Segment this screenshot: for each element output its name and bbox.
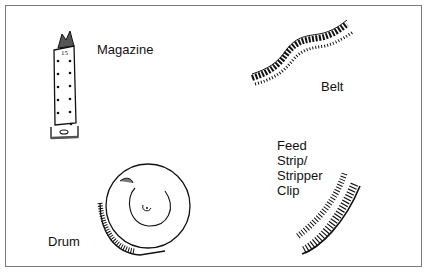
magazine-round-count: 15 (61, 49, 69, 57)
drum-label: Drum (48, 234, 80, 249)
drum-illustration (95, 163, 195, 263)
belt-label: Belt (321, 79, 343, 94)
magazine-illustration: 15 (48, 28, 88, 140)
feed-strip-label-line: Strip/ (277, 153, 323, 168)
magazine-label: Magazine (97, 42, 153, 57)
belt-illustration (247, 18, 357, 88)
feed-strip-label-line: Stripper (277, 168, 323, 183)
feed-strip-label: Feed Strip/ Stripper Clip (277, 138, 323, 198)
feed-strip-label-line: Clip (277, 183, 323, 198)
feed-strip-label-line: Feed (277, 138, 323, 153)
